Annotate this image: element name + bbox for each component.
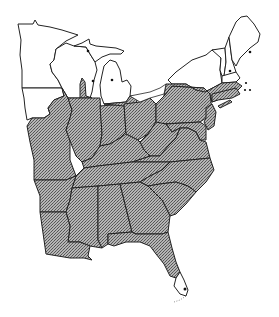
point-wisconsin bbox=[92, 80, 95, 83]
point-massachusetts bbox=[245, 82, 247, 84]
shaded-range bbox=[27, 78, 242, 278]
florida-keys bbox=[174, 296, 186, 302]
point-maine bbox=[249, 51, 252, 54]
state-maine bbox=[229, 16, 260, 66]
point-cape-islands-1 bbox=[244, 89, 246, 91]
state-mississippi bbox=[66, 186, 102, 248]
long-island bbox=[218, 100, 232, 108]
state-florida bbox=[108, 232, 180, 278]
point-cape-islands-2 bbox=[249, 89, 251, 91]
point-lower-michigan bbox=[111, 79, 114, 82]
range-map bbox=[0, 0, 279, 317]
point-new-hampshire bbox=[229, 70, 232, 73]
point-south-florida bbox=[184, 288, 187, 291]
point-upper-peninsula bbox=[87, 50, 90, 53]
state-michigan-lp bbox=[100, 60, 131, 104]
